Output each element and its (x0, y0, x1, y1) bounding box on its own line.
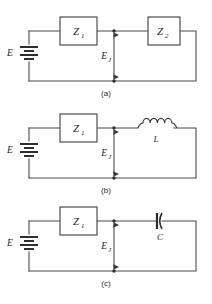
impedance-box-z1-b-label: Z (73, 122, 80, 134)
impedance-box-z2-a-subscript: 2 (165, 32, 169, 40)
junction-node-b-top (112, 126, 115, 129)
impedance-box-z2-a (148, 17, 180, 45)
capacitor-icon-c (157, 213, 162, 229)
panel-b: E Z 1 L E J (b) (6, 114, 196, 195)
junction-label-c: E (100, 241, 107, 251)
junction-subscript-c: J (108, 246, 112, 254)
figure-root: E Z 1 Z 2 E J (a) E Z 1 (0, 0, 212, 304)
impedance-box-z1-c-subscript: 1 (81, 222, 85, 230)
capacitor-label-c: C (157, 232, 164, 242)
impedance-box-z1-b-subscript: 1 (81, 129, 85, 137)
impedance-box-z1-a-label: Z (73, 25, 80, 37)
impedance-box-z1-c-label: Z (73, 215, 80, 227)
panel-a: E Z 1 Z 2 E J (a) (6, 17, 196, 98)
junction-node-a-bottom (112, 79, 115, 82)
source-label-a: E (6, 48, 13, 58)
impedance-box-z1-a-subscript: 1 (81, 32, 85, 40)
wire-b-right-bottom (29, 128, 196, 178)
junction-node-c-top (112, 219, 115, 222)
panel-caption-c: (c) (101, 279, 111, 288)
junction-node-c-bottom (112, 269, 115, 272)
impedance-box-z2-a-label: Z (157, 25, 164, 37)
panel-caption-a: (a) (101, 89, 111, 98)
battery-icon-b (20, 144, 38, 156)
junction-subscript-b: J (108, 153, 112, 161)
circuit-diagram-figure: E Z 1 Z 2 E J (a) E Z 1 (0, 0, 212, 304)
panel-caption-b: (b) (101, 186, 111, 195)
junction-node-b-bottom (112, 176, 115, 179)
panel-c: E Z 1 C E J (c) (6, 207, 196, 288)
junction-label-b: E (100, 148, 107, 158)
source-label-c: E (6, 238, 13, 248)
wire-c-right-bottom (29, 221, 196, 271)
junction-label-a: E (100, 51, 107, 61)
junction-node-a-top (112, 29, 115, 32)
source-label-b: E (6, 145, 13, 155)
inductor-label-b: L (152, 134, 158, 144)
battery-icon-a (20, 47, 38, 59)
inductor-icon-b (138, 118, 177, 128)
junction-subscript-a: J (108, 56, 112, 64)
battery-icon-c (20, 237, 38, 249)
